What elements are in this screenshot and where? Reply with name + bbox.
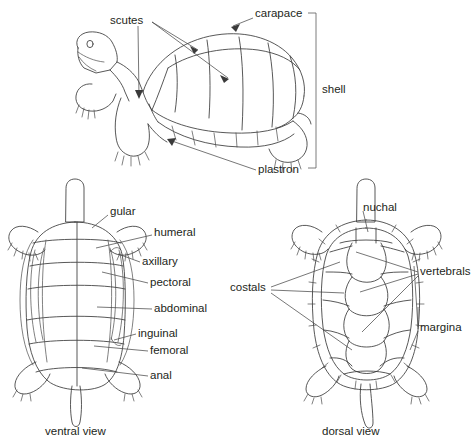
label-femoral: femoral [150, 345, 188, 357]
label-pectoral: pectoral [150, 277, 191, 289]
label-axillary: axillary [142, 256, 178, 268]
label-scutes: scutes [110, 15, 143, 27]
label-marginals: margina [420, 322, 462, 334]
label-humeral: humeral [154, 227, 196, 239]
caption-dorsal-view: dorsal view [322, 426, 380, 438]
label-nuchal: nuchal [363, 202, 397, 214]
dorsal-turtle-drawing [291, 179, 442, 428]
label-shell: shell [322, 84, 346, 96]
label-plastron: plastron [258, 164, 299, 176]
label-vertebrals: vertebrals [420, 266, 471, 278]
label-gular: gular [110, 206, 136, 218]
label-anal: anal [150, 370, 172, 382]
label-inguinal: inguinal [138, 328, 178, 340]
label-carapace: carapace [255, 8, 302, 20]
shell-bracket [308, 13, 316, 168]
caption-ventral-view: ventral view [45, 426, 106, 438]
label-abdominal: abdominal [154, 303, 207, 315]
label-costals: costals [230, 282, 266, 294]
